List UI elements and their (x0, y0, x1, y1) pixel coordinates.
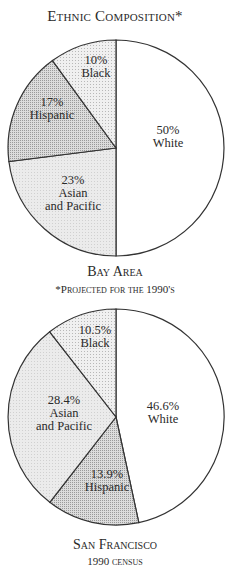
label-hispanic-pct: 13.9% (91, 467, 123, 481)
bay-area-caption: Bay Area (0, 264, 230, 280)
label-hispanic-name: Hispanic (85, 480, 130, 494)
label-asian-pct: 28.4% (48, 393, 80, 407)
bay-area-note: *Projected for the 1990's (0, 283, 230, 295)
bay-area-pie-chart: 10% Black 17% Hispanic 50% White 23% Asi… (0, 0, 230, 270)
label-black-pct: 10% (85, 53, 108, 67)
label-white-pct: 46.6% (147, 399, 179, 413)
san-francisco-caption: San Francisco (0, 537, 230, 553)
label-hispanic-name: Hispanic (30, 108, 75, 122)
label-hispanic-pct: 17% (41, 95, 64, 109)
san-francisco-pie-chart: 10.5% Black 28.4% Asian and Pacific 46.6… (0, 300, 230, 535)
label-asian-name1: Asian (58, 186, 88, 200)
label-white-name: White (148, 412, 179, 426)
label-asian-name2: and Pacific (36, 419, 92, 433)
label-black-name: Black (81, 66, 111, 80)
label-white-pct: 50% (157, 123, 180, 137)
label-asian-pct: 23% (62, 173, 85, 187)
label-black-name: Black (80, 336, 110, 350)
label-asian-name1: Asian (49, 406, 79, 420)
san-francisco-note: 1990 census (0, 555, 230, 567)
label-white-name: White (153, 136, 184, 150)
label-black-pct: 10.5% (79, 323, 111, 337)
label-asian-name2: and Pacific (45, 199, 101, 213)
